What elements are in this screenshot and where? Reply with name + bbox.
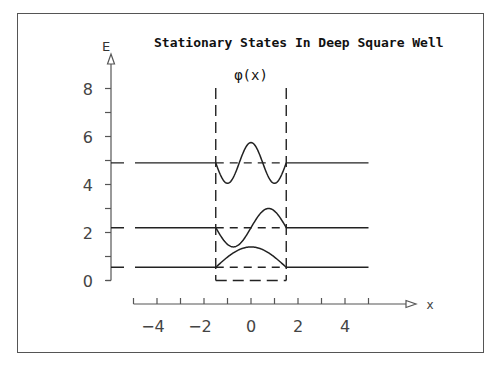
x-tick-labels: −4−2024 bbox=[141, 317, 350, 336]
y-tick-labels: 02468 bbox=[83, 80, 93, 291]
y-tick-label: 4 bbox=[83, 176, 93, 195]
x-tick-label: −2 bbox=[188, 317, 212, 336]
x-axis bbox=[134, 298, 417, 308]
x-axis-arrow-icon bbox=[406, 301, 416, 308]
wavefunction-n1 bbox=[216, 247, 287, 267]
y-tick-label: 2 bbox=[83, 224, 93, 243]
energy-levels bbox=[111, 163, 369, 267]
square-well bbox=[216, 88, 287, 281]
x-tick-label: 2 bbox=[293, 317, 303, 336]
x-tick-label: 4 bbox=[340, 317, 350, 336]
x-tick-label: 0 bbox=[246, 317, 256, 336]
x-tick-label: −4 bbox=[141, 317, 165, 336]
chart-title: Stationary States In Deep Square Well bbox=[154, 35, 444, 50]
y-axis bbox=[105, 54, 115, 281]
wavefunctions bbox=[216, 143, 287, 268]
y-tick-label: 6 bbox=[83, 128, 93, 147]
y-tick-label: 0 bbox=[83, 272, 93, 291]
y-axis-label: E bbox=[102, 39, 110, 54]
x-axis-label: x bbox=[426, 298, 433, 312]
plot-canvas: Stationary States In Deep Square Well E … bbox=[0, 0, 504, 370]
y-tick-label: 8 bbox=[83, 80, 93, 99]
y-axis-arrow-icon bbox=[108, 54, 115, 64]
phi-label: φ(x) bbox=[234, 67, 268, 83]
